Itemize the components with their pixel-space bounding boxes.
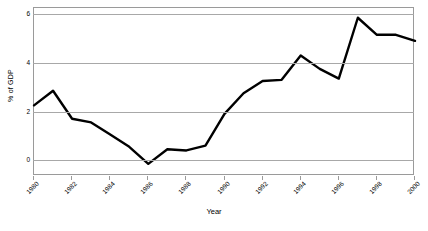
line-chart: 0246 19801982198419861988199019921994199… xyxy=(0,0,428,231)
y-tick-label: 0 xyxy=(21,157,30,164)
y-tick-label: 6 xyxy=(21,11,30,18)
y-axis-title: % of GDP xyxy=(7,56,14,116)
y-tick-label: 4 xyxy=(21,60,30,67)
y-tick-label: 2 xyxy=(21,108,30,115)
x-axis-title: Year xyxy=(0,207,428,216)
